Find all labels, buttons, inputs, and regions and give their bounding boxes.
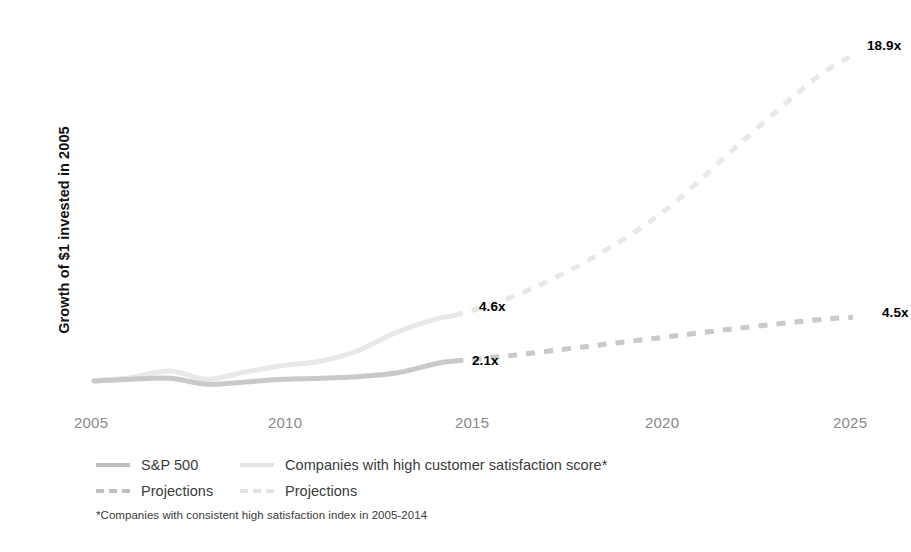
value-label-sp500-2014: 2.1x xyxy=(472,353,499,368)
legend-row-dashed: Projections Projections xyxy=(96,478,796,504)
x-axis: 2005 2010 2015 2020 2025 xyxy=(0,414,911,442)
legend-item-sp500[interactable]: S&P 500 xyxy=(96,457,240,473)
x-tick-label-2015: 2015 xyxy=(455,414,489,431)
legend-row-solid: S&P 500 Companies with high customer sat… xyxy=(96,452,796,478)
legend-label-satisfaction: Companies with high customer satisfactio… xyxy=(285,457,607,473)
legend-item-satisfaction[interactable]: Companies with high customer satisfactio… xyxy=(240,457,607,473)
x-tick-label-2025: 2025 xyxy=(833,414,867,431)
legend-swatch-satisfaction-solid-icon xyxy=(240,463,274,467)
x-tick-label-2005: 2005 xyxy=(74,414,108,431)
legend-item-sp500-projections[interactable]: Projections xyxy=(96,483,240,499)
value-label-satisfaction-2014: 4.6x xyxy=(479,299,506,314)
legend-swatch-satisfaction-dashed-icon xyxy=(240,489,274,493)
legend-swatch-sp500-solid-icon xyxy=(96,463,130,467)
plot-svg xyxy=(60,8,905,410)
series-line-sp500-projection xyxy=(455,317,853,361)
growth-line-chart: Growth of $1 invested in 2005 18.9x 4.6x… xyxy=(0,0,911,552)
x-tick-label-2010: 2010 xyxy=(268,414,302,431)
legend-label-sp500-projections: Projections xyxy=(141,483,213,499)
legend-item-satisfaction-projections[interactable]: Projections xyxy=(240,483,357,499)
series-line-satisfaction-projection xyxy=(455,55,853,315)
x-tick-label-2020: 2020 xyxy=(645,414,679,431)
legend-swatch-sp500-dashed-icon xyxy=(96,489,130,493)
value-label-satisfaction-2025: 18.9x xyxy=(867,38,901,53)
legend-label-sp500: S&P 500 xyxy=(141,457,198,473)
chart-footnote: *Companies with consistent high satisfac… xyxy=(96,509,427,521)
plot-area: 18.9x 4.6x 4.5x 2.1x xyxy=(60,8,905,410)
chart-legend: S&P 500 Companies with high customer sat… xyxy=(96,452,796,504)
value-label-sp500-2025: 4.5x xyxy=(882,305,909,320)
legend-label-satisfaction-projections: Projections xyxy=(285,483,357,499)
